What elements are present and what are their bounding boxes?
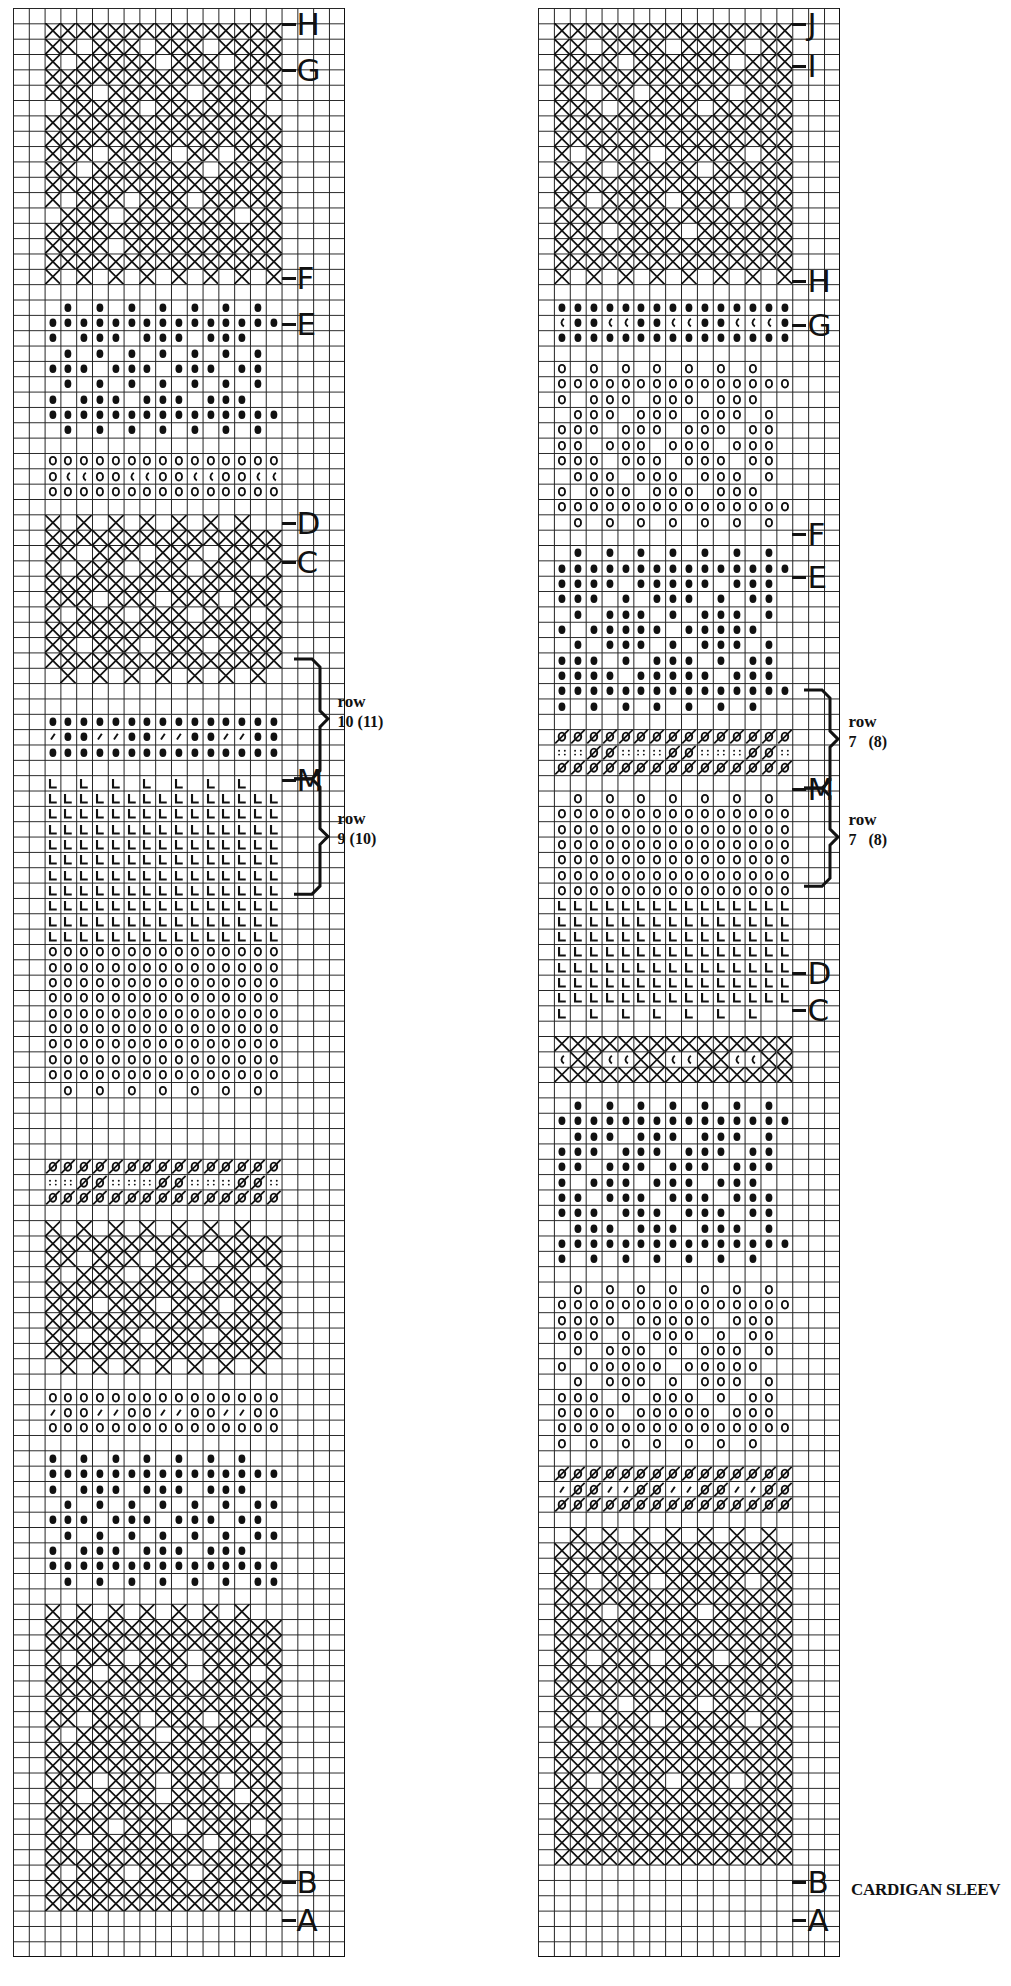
corner-l-icon (139, 822, 155, 837)
open-circle-icon (697, 822, 713, 837)
cross-stitch-icon (266, 1773, 282, 1788)
filled-dot-icon (234, 1451, 250, 1466)
open-circle-icon (218, 1036, 234, 1051)
open-circle-icon (618, 1436, 634, 1451)
cross-stitch-icon (649, 69, 665, 84)
cross-stitch-icon (633, 1743, 649, 1758)
cross-stitch-icon (139, 1773, 155, 1788)
row-count: 7 (8) (848, 732, 887, 752)
cross-stitch-icon (649, 1666, 665, 1681)
corner-l-icon (76, 806, 92, 821)
open-circle-icon (681, 852, 697, 867)
cross-stitch-icon (108, 515, 124, 530)
open-circle-icon (234, 1067, 250, 1082)
open-circle-icon (124, 944, 140, 959)
cross-stitch-icon (777, 1574, 793, 1589)
cross-stitch-icon (45, 146, 61, 161)
open-circle-icon (155, 944, 171, 959)
cross-stitch-icon (633, 54, 649, 69)
cross-stitch-icon (665, 1620, 681, 1635)
slash-icon (171, 1405, 187, 1420)
cross-stitch-icon (108, 653, 124, 668)
filled-dot-icon (60, 1558, 76, 1573)
open-circle-icon (570, 1405, 586, 1420)
open-circle-icon (139, 975, 155, 990)
cross-stitch-icon (586, 1743, 602, 1758)
filled-dot-icon (234, 361, 250, 376)
cross-stitch-icon (777, 1036, 793, 1051)
cross-stitch-icon (155, 1620, 171, 1635)
cross-stitch-icon (60, 1835, 76, 1850)
open-circle-icon (234, 944, 250, 959)
cross-stitch-icon (554, 1697, 570, 1712)
open-circle-icon (266, 1052, 282, 1067)
cross-stitch-icon (155, 1282, 171, 1297)
cross-stitch-icon (266, 131, 282, 146)
filled-dot-icon (745, 1236, 761, 1251)
filled-dot-icon (250, 376, 266, 391)
corner-l-icon (45, 929, 61, 944)
corner-l-icon (665, 944, 681, 959)
corner-l-icon (602, 960, 618, 975)
cross-stitch-icon (665, 1727, 681, 1742)
open-circle-icon (45, 1021, 61, 1036)
cross-stitch-icon (250, 1697, 266, 1712)
filled-dot-icon (681, 699, 697, 714)
corner-l-icon (266, 822, 282, 837)
cross-stitch-icon (554, 1727, 570, 1742)
filled-dot-icon (745, 561, 761, 576)
cross-stitch-icon (649, 54, 665, 69)
cross-stitch-icon (45, 1804, 61, 1819)
open-circle-icon (713, 852, 729, 867)
corner-l-icon (139, 776, 155, 791)
open-circle-icon (171, 453, 187, 468)
open-circle-icon (266, 960, 282, 975)
filled-dot-icon (681, 668, 697, 683)
slashed-circle-icon (697, 1482, 713, 1497)
filled-dot-icon (187, 346, 203, 361)
cross-stitch-icon (108, 269, 124, 284)
cross-stitch-icon (250, 1313, 266, 1328)
open-circle-icon (554, 484, 570, 499)
corner-l-icon (681, 944, 697, 959)
cross-stitch-icon (234, 1712, 250, 1727)
cross-stitch-icon (633, 1635, 649, 1650)
open-circle-icon (713, 422, 729, 437)
cross-stitch-icon (234, 1758, 250, 1773)
cross-stitch-icon (618, 1681, 634, 1696)
cross-stitch-icon (234, 23, 250, 38)
open-circle-icon (92, 1052, 108, 1067)
slashed-circle-icon (45, 1159, 61, 1174)
corner-l-icon (586, 960, 602, 975)
cross-stitch-icon (713, 1712, 729, 1727)
cross-stitch-icon (45, 1297, 61, 1312)
open-circle-icon (649, 361, 665, 376)
cross-stitch-icon (745, 1697, 761, 1712)
slashed-circle-icon (713, 760, 729, 775)
filled-dot-icon (745, 1205, 761, 1220)
open-circle-icon (713, 469, 729, 484)
corner-l-icon (139, 806, 155, 821)
filled-dot-icon (681, 576, 697, 591)
filled-dot-icon (713, 1113, 729, 1128)
cross-stitch-icon (713, 1681, 729, 1696)
cross-stitch-icon (554, 1835, 570, 1850)
filled-dot-icon (618, 1251, 634, 1266)
filled-dot-icon (681, 1190, 697, 1205)
filled-dot-icon (570, 1144, 586, 1159)
filled-dot-icon (681, 622, 697, 637)
cross-stitch-icon (45, 39, 61, 54)
cross-stitch-icon (729, 1558, 745, 1573)
open-circle-icon (697, 1297, 713, 1312)
filled-dot-icon (665, 1175, 681, 1190)
filled-dot-icon (729, 683, 745, 698)
cross-stitch-icon (155, 1251, 171, 1266)
cross-stitch-icon (139, 162, 155, 177)
slashed-circle-icon (108, 1190, 124, 1205)
corner-l-icon (108, 914, 124, 929)
open-circle-icon (697, 438, 713, 453)
row-brace (292, 777, 332, 896)
cross-stitch-icon (761, 1743, 777, 1758)
cross-stitch-icon (761, 39, 777, 54)
corner-l-icon (203, 791, 219, 806)
